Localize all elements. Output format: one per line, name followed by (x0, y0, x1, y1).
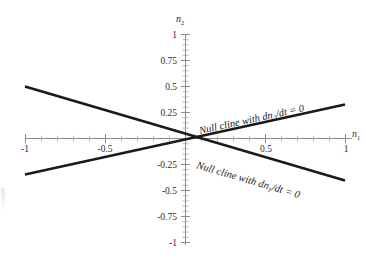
x-tick-label: 0.5 (260, 144, 272, 154)
y-tick-label: -0.25 (157, 160, 177, 170)
nullcline-plot: -1 -0.5 0.5 1 1 0.75 0.5 0.25 -0.25 -0.5… (0, 0, 385, 258)
y-tick-label: -0.5 (162, 186, 177, 196)
plot-canvas: -1 -0.5 0.5 1 1 0.75 0.5 0.25 -0.25 -0.5… (0, 0, 385, 258)
x-tick-label: -1 (21, 144, 29, 154)
y-axis-label-sub: 2 (181, 19, 184, 26)
x-axis-label-sub: 1 (357, 134, 360, 141)
y-tick-label: -1 (169, 238, 177, 248)
x-tick-label: -0.5 (97, 144, 112, 154)
x-tick-label: 1 (344, 144, 349, 154)
y-tick-label: 0.5 (165, 82, 177, 92)
y-tick-label: -0.75 (157, 212, 177, 222)
y-tick-label: 0.25 (160, 108, 177, 118)
y-tick-label: 1 (172, 30, 177, 40)
y-tick-label: 0.75 (160, 56, 177, 66)
plot-background (0, 0, 385, 258)
